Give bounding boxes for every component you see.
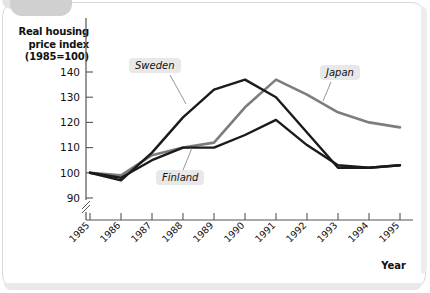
x-axis-tick-label: 1988 [160,220,185,245]
series-label-japan: Japan [320,65,360,80]
x-axis-tick-label: 1993 [315,220,340,245]
y-axis-tick-label: 140 [60,66,80,78]
axis-break-mark [82,205,90,213]
y-axis-tick-label: 100 [60,167,80,179]
leader-sweden [170,75,186,104]
leader-japan [323,82,331,101]
x-axis-title: Year [380,260,406,271]
x-axis-tick-label: 1995 [377,220,402,245]
x-axis-tick-label: 1985 [67,220,92,245]
line-chart: 9010011012013014019851986198719881989199… [0,0,430,293]
x-axis-tick-label: 1987 [129,220,154,245]
x-axis-tick-label: 1989 [191,220,216,245]
x-axis-tick-label: 1990 [222,220,247,245]
screenshot-root: Real housing price index (1985=100) 9010… [0,0,430,293]
series-line-finland [90,120,400,178]
leader-finland [183,148,192,170]
series-line-sweden [90,80,400,181]
y-axis-tick-label: 120 [60,116,80,128]
series-label-sweden: Sweden [129,58,181,73]
x-axis-tick-label: 1991 [253,220,278,245]
x-axis-tick-label: 1986 [98,220,123,245]
y-axis-tick-label: 90 [67,192,80,204]
y-axis-tick-label: 130 [60,91,80,103]
y-axis-tick-label: 110 [60,141,80,153]
x-axis-tick-label: 1992 [284,220,309,245]
x-axis-tick-label: 1994 [346,220,371,245]
series-line-japan [90,80,400,176]
series-label-finland: Finland [156,170,204,185]
axis-break-mark [82,201,90,209]
